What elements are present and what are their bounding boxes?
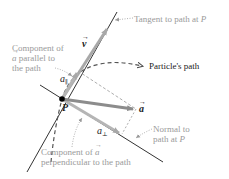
velocity-symbol: v	[82, 39, 86, 49]
tangent-label: Tangent to path at P	[134, 14, 206, 24]
leader-tangent	[115, 18, 133, 20]
acceleration-symbol: a	[139, 104, 144, 114]
normal-label-line2-text: path at	[153, 134, 180, 144]
perp-label-line1-text: Component of	[41, 147, 95, 157]
point-p-label: P	[62, 103, 68, 113]
a-perpendicular-symbol: a⊥	[97, 126, 108, 139]
acceleration-components-diagram: Tangent to path at P v Component of a pa…	[0, 0, 229, 179]
parallel-label-line2: a parallel to	[12, 53, 64, 63]
normal-label-line1: Normal to	[153, 124, 190, 134]
leader-normal	[136, 129, 152, 138]
parallel-label-line1: Component of	[12, 43, 64, 53]
perpendicular-component-label: Component of a perpendicular to the path	[41, 147, 131, 167]
a-perp-sub: ⊥	[102, 131, 108, 137]
particle-path-label-text: Particle's path	[149, 61, 199, 71]
perp-label-line2: perpendicular to the path	[41, 157, 131, 167]
leader-perpendicular	[72, 118, 82, 147]
parallel-label-symbol: a	[12, 53, 17, 63]
normal-label-line2: path at P	[153, 134, 190, 144]
acceleration-symbol-text: a	[139, 104, 144, 114]
velocity-symbol-text: v	[82, 39, 86, 49]
particle-path-label: Particle's path	[149, 61, 199, 71]
tangent-label-text: Tangent to path at	[134, 14, 201, 24]
a-parallel-sub: ∥	[65, 79, 68, 85]
a-parallel-symbol: a∥	[60, 74, 68, 87]
point-p	[59, 96, 65, 102]
perp-label-symbol: a	[95, 147, 100, 157]
construction-line-right	[122, 109, 136, 134]
parallel-component-label: Component of a parallel to the path	[12, 43, 64, 73]
parallel-label-line3: the path	[12, 63, 64, 73]
normal-label: Normal to path at P	[153, 124, 190, 144]
tangent-label-point: P	[201, 14, 207, 24]
perp-label-line1: Component of a	[41, 147, 131, 157]
point-p-label-text: P	[62, 102, 68, 113]
parallel-label-line2-text: parallel to	[17, 53, 55, 63]
normal-label-point: P	[180, 134, 186, 144]
